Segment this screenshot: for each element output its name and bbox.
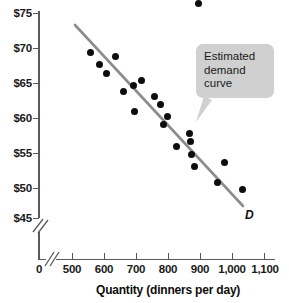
scatter-point	[214, 179, 221, 186]
y-tick-5	[33, 188, 39, 190]
y-tick-label-70: $70	[0, 42, 32, 54]
scatter-point	[239, 186, 246, 193]
y-tick-1	[33, 48, 39, 50]
x-axis-line	[56, 259, 275, 261]
scatter-point	[120, 88, 127, 95]
x-axis-title: Quantity (dinners per day)	[96, 283, 240, 297]
x-tick-1100	[264, 253, 266, 259]
y-tick-label-55: $55	[0, 147, 32, 159]
scatter-point	[151, 93, 158, 100]
demand-curve-chart: $75 $70 $65 $60 $55 $50 $45 0 500 600 70…	[0, 0, 289, 303]
y-tick-label-60: $60	[0, 112, 32, 124]
y-axis-lower-stub	[38, 232, 40, 260]
scatter-point	[131, 108, 138, 115]
y-tick-label-50: $50	[0, 182, 32, 194]
scatter-point	[188, 151, 195, 158]
y-tick-6	[33, 218, 39, 220]
y-tick-label-75: $75	[0, 7, 32, 19]
x-tick-700	[136, 253, 138, 259]
scatter-point	[186, 130, 193, 137]
callout-line-3: curve	[204, 77, 267, 91]
y-tick-label-65: $65	[0, 77, 32, 89]
x-tick-1000	[232, 253, 234, 259]
x-tick-label-0: 0	[28, 263, 50, 275]
x-tick-label-1100: 1,100	[245, 263, 285, 275]
y-tick-label-45: $45	[0, 212, 32, 224]
scatter-point	[130, 82, 137, 89]
x-tick-label-800: 800	[153, 263, 183, 275]
x-tick-600	[104, 253, 106, 259]
scatter-point	[96, 61, 103, 68]
scatter-point	[195, 0, 202, 7]
x-tick-label-500: 500	[57, 263, 87, 275]
y-tick-0	[33, 13, 39, 15]
scatter-point	[164, 113, 171, 120]
scatter-point	[157, 101, 164, 108]
callout-line-2: demand	[204, 64, 267, 78]
x-tick-500	[72, 253, 74, 259]
scatter-point	[112, 53, 119, 60]
y-tick-4	[33, 153, 39, 155]
demand-curve-d-label: D	[245, 208, 254, 222]
scatter-point	[103, 70, 110, 77]
x-tick-label-600: 600	[89, 263, 119, 275]
y-tick-3	[33, 118, 39, 120]
scatter-point	[191, 163, 198, 170]
scatter-point	[187, 138, 194, 145]
scatter-point	[87, 49, 94, 56]
x-tick-800	[168, 253, 170, 259]
scatter-point	[221, 159, 228, 166]
x-tick-label-900: 900	[185, 263, 215, 275]
y-axis-break-mark	[30, 216, 50, 236]
estimated-demand-curve-callout: Estimated demand curve	[196, 44, 274, 98]
callout-line-1: Estimated	[204, 50, 267, 64]
scatter-point	[173, 143, 180, 150]
y-tick-2	[33, 83, 39, 85]
scatter-point	[138, 77, 145, 84]
scatter-point	[160, 121, 167, 128]
x-tick-label-700: 700	[121, 263, 151, 275]
x-tick-900	[200, 253, 202, 259]
